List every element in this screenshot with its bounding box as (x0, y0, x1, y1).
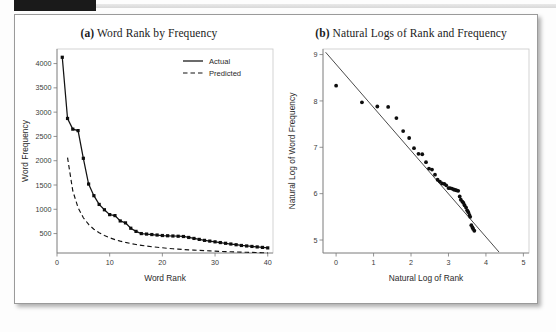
panel-a-data-point (229, 242, 232, 245)
legend-label-actual: Actual (209, 57, 230, 66)
panel-a-data-point (213, 240, 216, 243)
panel-b-data-point (412, 146, 416, 150)
panel-b-plot: 56789012345Natural Log of RankNatural Lo… (283, 41, 539, 301)
figure-root: (a) Word Rank by Frequency 5001000150020… (0, 0, 556, 332)
panel-a-y-axis-title: Word Frequency (20, 119, 30, 182)
panel-a-y-tick-label: 2000 (36, 156, 52, 165)
panel-b-x-tick-label: 4 (484, 258, 488, 267)
panel-a-data-point (66, 117, 69, 120)
panel-a-title-text: Word Rank by Frequency (94, 27, 217, 39)
panel-a-y-tick-label: 3500 (36, 83, 52, 92)
panel-a-plot: 5001000150020002500300035004000010203040… (15, 41, 283, 301)
panel-a-title: (a) Word Rank by Frequency (15, 27, 283, 39)
panel-a-data-point (256, 245, 259, 248)
panel-b-data-point (472, 229, 476, 233)
panel-b-data-point (386, 105, 390, 109)
panel-a-data-point (71, 128, 74, 131)
panel-b-data-point (375, 105, 379, 109)
panel-a-data-point (250, 245, 253, 248)
panel-a-data-point (124, 221, 127, 224)
panel-b-data-point (417, 152, 421, 156)
panel-a-data-point (145, 232, 148, 235)
panel-b-title-label: (b) (315, 27, 329, 39)
panel-a-data-point (87, 182, 90, 185)
panel-a-data-point (208, 240, 211, 243)
panel-b-data-point (360, 100, 364, 104)
panel-a-data-point (150, 233, 153, 236)
panel-a-y-tick-label: 1000 (36, 205, 52, 214)
panel-b-x-axis-title: Natural Log of Rank (389, 273, 464, 283)
panel-a-data-point (166, 234, 169, 237)
panel-a-x-tick-label: 20 (158, 258, 166, 267)
panel-b-x-tick-label: 0 (334, 258, 338, 267)
panel-b-y-tick-label: 8 (314, 97, 318, 106)
panel-b: (b) Natural Logs of Rank and Frequency 5… (283, 15, 539, 305)
panel-a-data-point (245, 244, 248, 247)
panel-b-plot-frame (323, 49, 529, 253)
panel-a-data-point (92, 194, 95, 197)
panel-a-data-point (134, 230, 137, 233)
panel-a-data-point (187, 236, 190, 239)
panel-a-x-tick-label: 40 (264, 258, 272, 267)
panel-a-data-point (203, 239, 206, 242)
panel-a-data-point (224, 242, 227, 245)
panel-a-data-point (129, 227, 132, 230)
panel-a-y-tick-label: 4000 (36, 59, 52, 68)
panel-a-data-point (98, 203, 101, 206)
panel-a-title-label: (a) (81, 27, 95, 39)
panel-a-data-point (161, 234, 164, 237)
panel-b-data-point (395, 116, 399, 120)
panel-a-data-point (103, 208, 106, 211)
panel-a-data-point (240, 244, 243, 247)
panel-b-data-point (430, 168, 434, 172)
panel-b-y-tick-label: 7 (314, 143, 318, 152)
top-rule (96, 4, 556, 8)
panel-a-data-point (192, 237, 195, 240)
panel-a-x-tick-label: 30 (211, 258, 219, 267)
panel-a-data-point (113, 214, 116, 217)
panel-a-data-point (108, 213, 111, 216)
panel-a-y-tick-label: 2500 (36, 132, 52, 141)
panel-a-data-point (261, 246, 264, 249)
panel-b-data-point (468, 215, 472, 219)
panel-b-data-point (458, 195, 462, 199)
panel-a-data-point (219, 241, 222, 244)
panel-a-data-point (198, 238, 201, 241)
panel-b-y-tick-label: 9 (314, 50, 318, 59)
panel-a-data-point (119, 219, 122, 222)
panel-b-x-tick-label: 3 (446, 258, 450, 267)
figure-frame: (a) Word Rank by Frequency 5001000150020… (14, 14, 538, 304)
panel-b-y-tick-label: 6 (314, 189, 318, 198)
panel-a-data-point (171, 234, 174, 237)
panel-a-x-axis-title: Word Rank (144, 273, 187, 283)
panel-b-data-point (420, 152, 424, 156)
panel-b-x-tick-label: 5 (521, 258, 525, 267)
panel-a-x-tick-label: 0 (55, 258, 59, 267)
panel-b-y-tick-label: 5 (314, 236, 318, 245)
panel-a-data-point (61, 56, 64, 59)
panel-a-y-tick-label: 1500 (36, 181, 52, 190)
panel-b-x-tick-label: 1 (372, 258, 376, 267)
panel-b-x-tick-label: 2 (409, 258, 413, 267)
panel-a-data-point (177, 235, 180, 238)
panel-b-data-point (456, 189, 460, 193)
panel-a: (a) Word Rank by Frequency 5001000150020… (15, 15, 283, 305)
panel-b-data-point (334, 84, 338, 88)
panel-b-data-point (433, 173, 437, 177)
panel-a-data-point (76, 129, 79, 132)
panel-a-y-tick-label: 500 (40, 229, 52, 238)
panel-a-data-point (156, 233, 159, 236)
top-black-bar (14, 0, 96, 11)
panel-a-y-tick-label: 3000 (36, 108, 52, 117)
panel-a-data-point (82, 157, 85, 160)
panel-b-data-point (424, 160, 428, 164)
panel-b-y-axis-title: Natural Log of Word Frequency (287, 92, 297, 210)
panel-b-data-point (407, 136, 411, 140)
panel-b-title-text: Natural Logs of Rank and Frequency (330, 27, 507, 39)
panel-a-x-tick-label: 10 (106, 258, 114, 267)
panel-a-plot-frame (57, 49, 273, 253)
panel-b-title: (b) Natural Logs of Rank and Frequency (283, 27, 539, 39)
panel-a-data-point (182, 235, 185, 238)
panel-a-data-point (235, 243, 238, 246)
legend-label-predicted: Predicted (209, 69, 241, 78)
